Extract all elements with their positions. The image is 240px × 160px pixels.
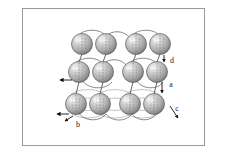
- dimension-label-b: b: [76, 120, 80, 129]
- lattice-diagram: d a c b: [0, 0, 240, 160]
- lattice-sphere: [147, 62, 168, 83]
- dimension-label-a: a: [169, 80, 173, 89]
- dimension-label-c: c: [175, 104, 179, 113]
- lattice-sphere: [120, 94, 141, 115]
- lattice-sphere: [66, 94, 87, 115]
- bond-arc-group-row2-lower: [82, 80, 163, 88]
- vertical-connector: [76, 82, 79, 94]
- vertical-connector: [130, 82, 133, 94]
- lattice-sphere: [123, 62, 144, 83]
- figure-root: d a c b: [0, 0, 240, 160]
- vertical-connector: [133, 54, 136, 62]
- vertical-connector: [103, 54, 106, 62]
- lattice-sphere: [69, 62, 90, 83]
- lattice-sphere: [150, 34, 171, 55]
- dimension-label-d: d: [170, 56, 174, 65]
- dimension-arrow-b: [65, 116, 73, 121]
- bond-arc-group-row3: [78, 112, 158, 120]
- lattice-sphere: [72, 34, 93, 55]
- vertical-connector: [79, 54, 82, 62]
- lattice-sphere: [96, 34, 117, 55]
- lattice-sphere: [93, 62, 114, 83]
- lattice-sphere: [126, 34, 147, 55]
- lattice-sphere: [90, 94, 111, 115]
- lattice-sphere: [144, 94, 165, 115]
- sphere-lattice: [66, 34, 171, 115]
- vertical-connector: [157, 54, 160, 62]
